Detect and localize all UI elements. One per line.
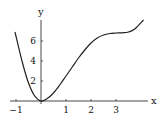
y-axis: 246 y xyxy=(30,6,44,104)
x-axis-label: x xyxy=(151,95,157,106)
x-axis: −1123 x xyxy=(9,95,157,115)
y-tick-label: 6 xyxy=(30,36,36,46)
x-tick-label: 3 xyxy=(113,105,119,115)
line-chart: −1123 x 246 y xyxy=(0,0,158,117)
y-axis-label: y xyxy=(37,6,44,17)
x-tick-label: 2 xyxy=(88,105,94,115)
x-tick-label: 1 xyxy=(63,105,69,115)
x-tick-label: −1 xyxy=(9,105,22,115)
y-tick-label: 4 xyxy=(30,56,36,66)
y-tick-label: 2 xyxy=(30,76,36,86)
